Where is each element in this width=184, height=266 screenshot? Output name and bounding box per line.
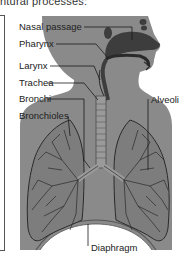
label-nasal-passage: Nasal passage [19,22,82,32]
trachea [96,96,106,168]
label-larynx: Larynx [19,61,48,71]
label-alveoli: Alveoli [151,95,179,105]
label-trachea: Trachea [19,78,54,88]
label-diaphragm: Diaphragm [91,243,137,253]
label-pharynx: Pharynx [19,39,54,49]
label-bronchioles: Bronchioles [19,111,69,121]
label-bronchi: Bronchi [19,94,51,104]
